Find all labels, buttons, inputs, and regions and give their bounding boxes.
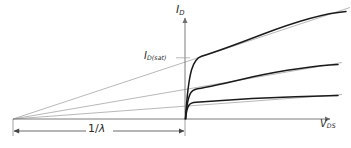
y-axis-label: ID (176, 4, 185, 16)
extrapolation-line-top (13, 8, 350, 120)
x-axis-label: VDS (320, 119, 336, 130)
curves (186, 12, 347, 120)
extrapolation-lines (13, 8, 350, 120)
curve-middle (186, 65, 339, 119)
x-axis-label-main: V (320, 118, 327, 129)
x-axis-label-subscript: DS (327, 122, 336, 129)
saturation-current-label: ID(sat) (144, 51, 167, 62)
saturation-current-label-subscript: D(sat) (147, 54, 167, 61)
curve-bottom (186, 95, 339, 119)
dimension-label-text: 1/ (88, 122, 99, 135)
lambda-symbol: λ (99, 122, 106, 135)
extrapolation-line-middle (13, 63, 342, 120)
figure-canvas: ID ID(sat) VDS 1/λ (0, 0, 351, 148)
mosfet-output-characteristics-plot (0, 0, 351, 148)
dimension-label: 1/λ (88, 123, 105, 134)
extrapolation-line-bottom (13, 95, 342, 120)
y-axis-label-subscript: D (179, 9, 184, 17)
axes (13, 18, 330, 119)
